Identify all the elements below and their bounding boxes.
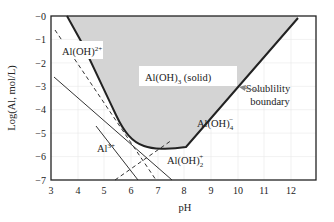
svg-text:−7: −7 [35, 175, 46, 186]
svg-text:−3: −3 [35, 81, 46, 92]
svg-text:8: 8 [182, 185, 187, 196]
svg-text:9: 9 [209, 185, 214, 196]
svg-text:−4: −4 [35, 104, 46, 115]
svg-text:−1: −1 [35, 34, 46, 45]
svg-text:4: 4 [76, 185, 81, 196]
svg-text:−6: −6 [35, 151, 46, 162]
label-solubility: Solublility [246, 83, 291, 94]
svg-text:10: 10 [233, 185, 243, 196]
svg-text:5: 5 [102, 185, 107, 196]
y-axis-ticks: −0 −1 −2 −3 −4 −5 −6 −7 [35, 11, 46, 186]
x-axis-ticks: 3 4 5 6 7 8 9 10 11 12 [49, 185, 297, 196]
svg-text:−0: −0 [35, 11, 46, 22]
label-boundary: boundary [250, 96, 290, 107]
label-al3plus: Al3+ [97, 142, 115, 154]
svg-text:3: 3 [49, 185, 54, 196]
svg-text:11: 11 [259, 185, 269, 196]
svg-text:−5: −5 [35, 128, 46, 139]
y-axis-title: Log(Al, mol/L) [6, 65, 18, 131]
x-axis-title: pH [179, 202, 192, 213]
svg-text:7: 7 [156, 185, 161, 196]
svg-text:6: 6 [129, 185, 134, 196]
svg-text:12: 12 [286, 185, 296, 196]
label-aloh2-plus: Al(OH)2+ [167, 153, 204, 169]
svg-text:−2: −2 [35, 58, 46, 69]
label-aloh4-minus: Al(OH)4− [197, 116, 234, 132]
solubility-chart: Al(OH)2+ Al(OH)3 (solid) Al3+ Al(OH)4− A… [0, 0, 334, 222]
